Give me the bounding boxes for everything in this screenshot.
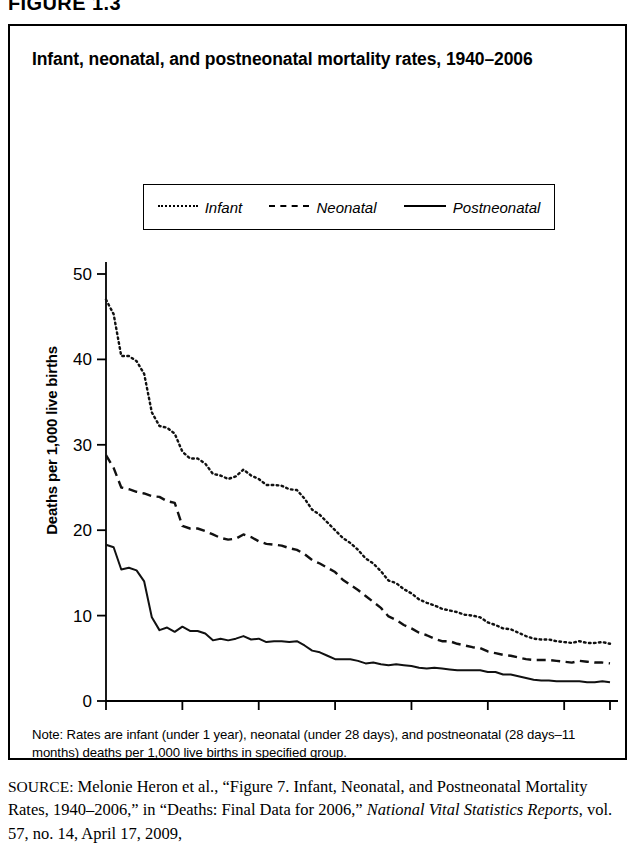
series-line-neonatal (106, 455, 610, 663)
y-tick-label: 40 (73, 350, 92, 369)
source-journal-title: National Vital Statistics Reports (367, 800, 579, 819)
figure-page: FIGURE 1.3 Infant, neonatal, and postneo… (0, 0, 642, 856)
line-chart: 0102030405019401950196019701980199020002… (10, 244, 629, 714)
figure-title: Infant, neonatal, and postneonatal morta… (32, 48, 552, 71)
legend-item-infant: Infant (158, 199, 243, 216)
source-label: SOURCE: (8, 778, 73, 795)
legend-swatch-dotted-icon (158, 205, 198, 210)
chart-plot-area: Deaths per 1,000 live births 01020304050… (10, 244, 629, 714)
legend-label-neonatal: Neonatal (316, 199, 376, 216)
legend-swatch-dashed-icon (269, 205, 309, 210)
source-citation: SOURCE: Melonie Heron et al., “Figure 7.… (8, 775, 620, 845)
figure-box: Infant, neonatal, and postneonatal morta… (8, 24, 627, 760)
figure-number: FIGURE 1.3 (8, 0, 121, 15)
legend-item-postneonatal: Postneonatal (404, 199, 541, 216)
y-tick-label: 0 (83, 692, 92, 711)
chart-note: Note: Rates are infant (under 1 year), n… (32, 726, 612, 762)
legend-label-infant: Infant (205, 199, 243, 216)
legend-item-neonatal: Neonatal (269, 199, 376, 216)
y-tick-label: 50 (73, 265, 92, 284)
y-tick-label: 30 (73, 436, 92, 455)
series-line-infant (106, 300, 610, 644)
chart-legend: Infant Neonatal Postneonatal (143, 184, 555, 230)
legend-label-postneonatal: Postneonatal (453, 199, 541, 216)
legend-swatch-solid-icon (404, 205, 446, 210)
y-tick-label: 20 (73, 521, 92, 540)
y-tick-label: 10 (73, 607, 92, 626)
series-line-postneonatal (106, 545, 610, 682)
